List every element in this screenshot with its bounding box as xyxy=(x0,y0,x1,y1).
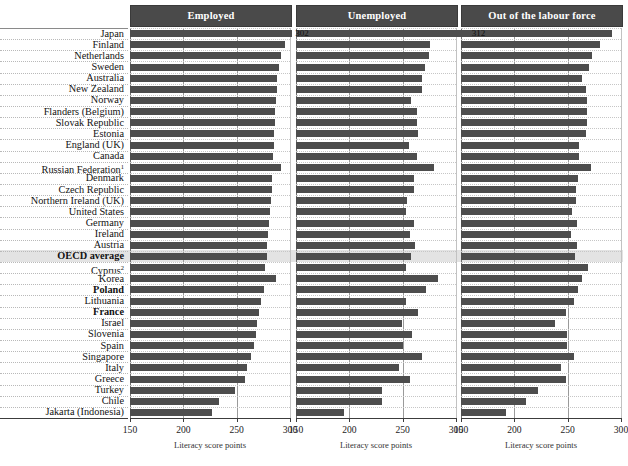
row-leader-line xyxy=(0,173,128,174)
row-leader-line xyxy=(0,307,128,308)
bar-employed-slovak-republic xyxy=(130,119,275,126)
bar-unemployed-france xyxy=(296,309,418,316)
row-leader-line xyxy=(0,251,128,252)
row-separator xyxy=(461,295,621,296)
panel-header-employed: Employed xyxy=(130,5,292,27)
bar-employed-lithuania xyxy=(130,298,261,305)
row-leader-line xyxy=(0,351,128,352)
row-separator xyxy=(461,128,621,129)
bar-out_of_labour_force-oecd-average xyxy=(461,253,575,260)
bar-unemployed-singapore xyxy=(296,353,422,360)
bar-out_of_labour_force-flanders-belgium xyxy=(461,108,587,115)
row-separator xyxy=(461,229,621,230)
bar-employed-japan xyxy=(130,30,292,37)
bar-employed-turkey xyxy=(130,387,235,394)
bar-out_of_labour_force-france xyxy=(461,309,566,316)
bar-employed-chile xyxy=(130,398,219,405)
row-separator xyxy=(461,39,621,40)
row-separator xyxy=(130,307,290,308)
x-axis-tick-employed-250 xyxy=(237,418,238,422)
row-separator xyxy=(296,407,456,408)
bar-employed-oecd-average xyxy=(130,253,267,260)
bar-unemployed-norway xyxy=(296,97,411,104)
bar-out_of_labour_force-new-zealand xyxy=(461,86,586,93)
x-axis-tick-label-out_of_labour_force-300: 300 xyxy=(614,424,628,435)
row-separator xyxy=(130,28,290,29)
row-label-ireland: Ireland xyxy=(95,228,124,239)
row-separator xyxy=(461,151,621,152)
bar-out_of_labour_force-singapore xyxy=(461,353,574,360)
row-leader-line xyxy=(0,106,128,107)
row-separator xyxy=(130,273,290,274)
bar-employed-ireland xyxy=(130,231,268,238)
row-separator xyxy=(296,173,456,174)
row-separator xyxy=(296,184,456,185)
row-label-slovak-republic: Slovak Republic xyxy=(56,117,124,128)
row-separator xyxy=(296,295,456,296)
row-leader-line xyxy=(0,50,128,51)
x-axis-tick-employed-200 xyxy=(183,418,184,422)
row-label-slovenia: Slovenia xyxy=(88,328,124,339)
bar-out_of_labour_force-italy xyxy=(461,364,561,371)
row-separator xyxy=(130,396,290,397)
bar-out_of_labour_force-estonia xyxy=(461,130,586,137)
bar-employed-cyprus xyxy=(130,264,265,271)
row-label-greece: Greece xyxy=(95,373,124,384)
row-label-turkey: Turkey xyxy=(95,384,124,395)
bar-unemployed-new-zealand xyxy=(296,86,422,93)
row-leader-line xyxy=(0,240,128,241)
bar-employed-australia xyxy=(130,75,277,82)
bar-out_of_labour_force-sweden xyxy=(461,64,589,71)
row-separator xyxy=(130,385,290,386)
bar-employed-germany xyxy=(130,220,269,227)
row-separator xyxy=(296,139,456,140)
row-label-flanders-belgium: Flanders (Belgium) xyxy=(44,106,124,117)
bar-unemployed-turkey xyxy=(296,387,382,394)
row-label-australia: Australia xyxy=(86,72,124,83)
row-leader-line xyxy=(0,128,128,129)
row-separator xyxy=(130,61,290,62)
row-label-israel: Israel xyxy=(101,317,124,328)
bar-employed-england-uk xyxy=(130,142,274,149)
row-separator xyxy=(130,84,290,85)
bar-out_of_labour_force-netherlands xyxy=(461,52,592,59)
row-separator xyxy=(296,240,456,241)
row-separator xyxy=(461,340,621,341)
row-separator xyxy=(461,139,621,140)
bar-out_of_labour_force-denmark xyxy=(461,175,578,182)
row-separator xyxy=(296,251,456,252)
row-label-chile: Chile xyxy=(102,395,124,406)
row-separator xyxy=(130,151,290,152)
bar-out_of_labour_force-korea xyxy=(461,275,582,282)
row-separator xyxy=(461,362,621,363)
row-label-korea: Korea xyxy=(99,273,124,284)
label-column-bottom-rule xyxy=(0,418,128,419)
row-label-netherlands: Netherlands xyxy=(74,50,124,61)
gridline-unemployed-300 xyxy=(456,28,457,418)
row-separator xyxy=(461,407,621,408)
x-axis-line-unemployed xyxy=(296,418,456,419)
bar-out_of_labour_force-chile xyxy=(461,398,526,405)
bar-employed-france xyxy=(130,309,259,316)
bar-out_of_labour_force-austria xyxy=(461,242,577,249)
bar-unemployed-israel xyxy=(296,320,402,327)
row-separator xyxy=(296,151,456,152)
gridline-out_of_labour_force-300 xyxy=(621,28,622,418)
bar-unemployed-germany xyxy=(296,220,414,227)
row-separator xyxy=(296,307,456,308)
row-leader-line xyxy=(0,273,128,274)
row-separator xyxy=(130,217,290,218)
bar-out_of_labour_force-poland xyxy=(461,286,578,293)
row-separator xyxy=(461,307,621,308)
x-axis-tick-label-out_of_labour_force-200: 200 xyxy=(507,424,521,435)
row-separator xyxy=(461,184,621,185)
row-separator xyxy=(130,50,290,51)
row-leader-line xyxy=(0,362,128,363)
row-label-new-zealand: New Zealand xyxy=(69,83,124,94)
row-separator xyxy=(461,351,621,352)
bar-unemployed-finland xyxy=(296,41,430,48)
row-separator xyxy=(130,184,290,185)
row-label-norway: Norway xyxy=(91,94,124,105)
row-leader-line xyxy=(0,151,128,152)
